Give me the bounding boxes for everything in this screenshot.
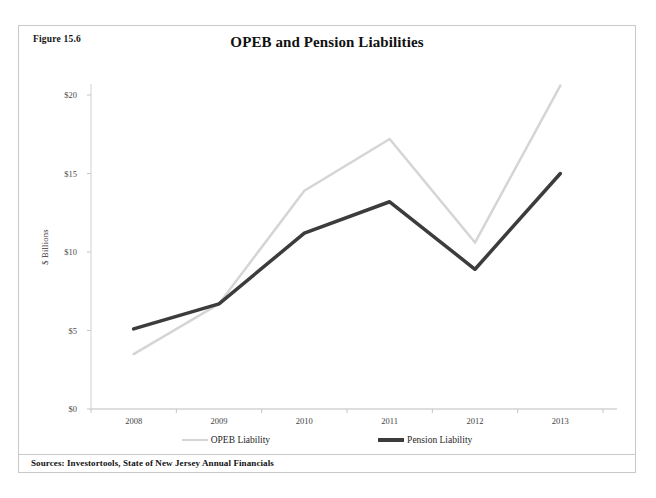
series-line-opeb bbox=[134, 86, 561, 354]
y-tick-label: $0 bbox=[33, 404, 77, 414]
y-tick-label: $20 bbox=[33, 90, 77, 100]
line-chart-svg bbox=[19, 26, 637, 474]
x-tick-label: 2012 bbox=[440, 416, 510, 426]
legend-label: Pension Liability bbox=[407, 435, 472, 445]
x-tick-label: 2009 bbox=[184, 416, 254, 426]
figure-container: Figure 15.6 OPEB and Pension Liabilities… bbox=[18, 25, 636, 473]
legend-entry-opeb: OPEB Liability bbox=[182, 435, 270, 445]
series-line-pension bbox=[134, 174, 561, 329]
x-tick-label: 2008 bbox=[99, 416, 169, 426]
y-tick-label: $15 bbox=[33, 169, 77, 179]
legend-swatch-icon bbox=[378, 438, 404, 442]
x-tick-label: 2010 bbox=[269, 416, 339, 426]
legend-entry-pension: Pension Liability bbox=[378, 435, 472, 445]
chart-legend: OPEB LiabilityPension Liability bbox=[19, 435, 635, 445]
source-note: Sources: Investortools, State of New Jer… bbox=[31, 458, 274, 468]
y-tick-label: $5 bbox=[33, 326, 77, 336]
x-tick-label: 2011 bbox=[355, 416, 425, 426]
legend-swatch-icon bbox=[182, 439, 208, 441]
y-tick-label: $10 bbox=[33, 247, 77, 257]
plot-area: $ Billions $0$5$10$15$20 200820092010201… bbox=[19, 26, 637, 474]
x-tick-label: 2013 bbox=[525, 416, 595, 426]
source-divider bbox=[19, 454, 635, 455]
legend-label: OPEB Liability bbox=[211, 435, 270, 445]
